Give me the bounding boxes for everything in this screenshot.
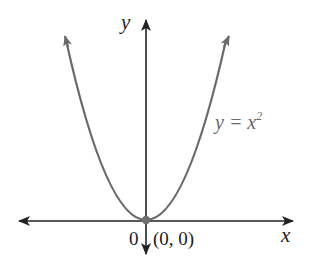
x-axis-label: x [281,225,290,246]
curve-equation-base: y = x [215,111,256,133]
origin-point [142,216,150,224]
origin-coordinate-label: (0, 0) [153,229,194,248]
parabola-graph [0,0,315,262]
curve-equation-label: y = x2 [215,110,262,132]
curve-arrow-left [65,36,68,47]
curve-equation-exponent: 2 [256,109,262,123]
origin-tick-label: 0 [129,229,139,248]
y-axis-label: y [121,12,130,33]
